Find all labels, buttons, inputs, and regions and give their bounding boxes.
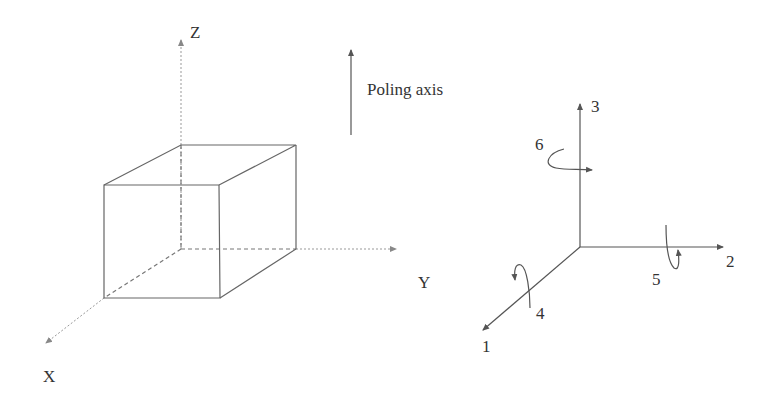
rotation-5-label: 5 (652, 270, 661, 289)
axis-1-label: 1 (482, 337, 491, 356)
axis-3-label: 3 (591, 97, 600, 116)
right-axis-system (483, 104, 723, 330)
rotation-6-label: 6 (535, 135, 544, 154)
z-axis-label: Z (190, 23, 200, 42)
x-axis (46, 298, 104, 343)
axis-2-label: 2 (726, 252, 735, 271)
poling-axis-label: Poling axis (367, 80, 443, 99)
rotation-6-arrow (548, 149, 592, 170)
diagram-canvas: Z Y X Poling axis 3 2 1 6 5 4 (0, 0, 768, 397)
x-axis-label: X (43, 367, 55, 386)
y-axis-label: Y (418, 273, 430, 292)
cube (104, 145, 296, 298)
rotation-4-label: 4 (536, 304, 545, 323)
axis-1 (483, 247, 580, 330)
